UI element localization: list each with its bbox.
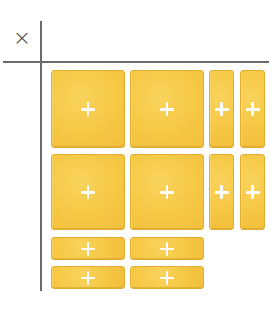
tile-sign: + <box>160 185 161 186</box>
multiplication-sign: × <box>12 27 32 49</box>
tile-sign: + <box>215 102 216 103</box>
plus-icon: + <box>215 102 229 116</box>
algebra-tile-x-squared: + <box>51 70 125 148</box>
tile-sign: + <box>81 242 82 243</box>
algebra-tile-x-vertical: + <box>209 70 234 148</box>
algebra-tile-x-vertical: + <box>240 154 265 230</box>
plus-icon: + <box>81 102 95 116</box>
algebra-tile-x-horizontal: + <box>130 266 204 289</box>
algebra-tile-x-squared: + <box>130 154 204 230</box>
plus-icon: + <box>81 185 95 199</box>
algebra-tile-x-vertical: + <box>209 154 234 230</box>
tile-sign: + <box>81 185 82 186</box>
tile-sign: + <box>160 242 161 243</box>
algebra-tile-x-vertical: + <box>240 70 265 148</box>
plus-icon: + <box>160 271 174 285</box>
vertical-axis-line <box>40 21 42 291</box>
tile-sign: + <box>160 102 161 103</box>
algebra-tile-x-squared: + <box>130 70 204 148</box>
plus-icon: + <box>246 185 260 199</box>
plus-icon: + <box>81 242 95 256</box>
algebra-tile-x-squared: + <box>51 154 125 230</box>
plus-icon: + <box>246 102 260 116</box>
horizontal-axis-line <box>3 61 269 63</box>
tile-sign: + <box>81 271 82 272</box>
tile-sign: + <box>81 102 82 103</box>
algebra-tile-x-horizontal: + <box>51 266 125 289</box>
plus-icon: + <box>160 242 174 256</box>
tile-sign: + <box>246 185 247 186</box>
plus-icon: + <box>160 185 174 199</box>
plus-icon: + <box>215 185 229 199</box>
plus-icon: + <box>81 271 95 285</box>
tile-sign: + <box>215 185 216 186</box>
tile-sign: + <box>160 271 161 272</box>
algebra-tile-x-horizontal: + <box>130 237 204 260</box>
plus-icon: + <box>160 102 174 116</box>
tile-sign: + <box>246 102 247 103</box>
algebra-tile-x-horizontal: + <box>51 237 125 260</box>
